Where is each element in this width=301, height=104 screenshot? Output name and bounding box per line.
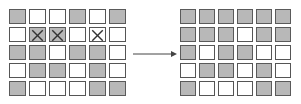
- grid-cell: [256, 9, 272, 24]
- grid-cell: [199, 9, 215, 24]
- grid-cell: [199, 63, 215, 78]
- right-arrow-icon: [133, 51, 177, 57]
- grid-cell: [69, 63, 86, 78]
- grid-cell: [256, 45, 272, 60]
- grid-cell: [109, 45, 126, 60]
- grid-cell: [275, 27, 291, 42]
- grid-cell: [199, 27, 215, 42]
- grid-cell: [69, 27, 86, 42]
- grid-cell: [49, 63, 66, 78]
- grid-cell: [275, 81, 291, 96]
- grid-cell: [89, 81, 106, 96]
- grid-cell: [69, 9, 86, 24]
- grid-cell: [109, 63, 126, 78]
- grid-cell: [180, 45, 196, 60]
- grid-cell: [275, 63, 291, 78]
- grid-cell: [199, 81, 215, 96]
- grid-cell: [9, 9, 26, 24]
- grid-cell: [9, 27, 26, 42]
- grid-cell: [69, 45, 86, 60]
- cross-icon: [30, 28, 45, 43]
- grid-cell: [29, 45, 46, 60]
- grid-cell: [29, 9, 46, 24]
- grid-cell: [89, 45, 106, 60]
- grid-cell: [9, 45, 26, 60]
- grid-cell: [237, 9, 253, 24]
- grid-cell: [49, 45, 66, 60]
- after-grid: [180, 9, 291, 96]
- grid-cell: [180, 63, 196, 78]
- cross-icon: [50, 28, 65, 43]
- grid-cell: [256, 27, 272, 42]
- grid-cell: [89, 27, 106, 42]
- grid-cell: [218, 27, 234, 42]
- grid-cell: [218, 81, 234, 96]
- grid-cell: [49, 9, 66, 24]
- grid-cell: [29, 27, 46, 42]
- grid-cell: [109, 27, 126, 42]
- grid-cell: [89, 63, 106, 78]
- grid-cell: [109, 81, 126, 96]
- grid-cell: [256, 63, 272, 78]
- grid-cell: [180, 81, 196, 96]
- grid-cell: [275, 45, 291, 60]
- grid-cell: [256, 81, 272, 96]
- grid-cell: [218, 9, 234, 24]
- grid-cell: [109, 9, 126, 24]
- cross-icon: [90, 28, 105, 43]
- grid-cell: [218, 45, 234, 60]
- grid-cell: [69, 81, 86, 96]
- grid-cell: [199, 45, 215, 60]
- grid-cell: [29, 81, 46, 96]
- grid-cell: [49, 81, 66, 96]
- grid-cell: [218, 63, 234, 78]
- grid-cell: [237, 27, 253, 42]
- grid-cell: [237, 63, 253, 78]
- grid-cell: [237, 45, 253, 60]
- grid-cell: [237, 81, 253, 96]
- grid-cell: [49, 27, 66, 42]
- before-grid: [9, 9, 126, 96]
- grid-cell: [89, 9, 106, 24]
- grid-cell: [9, 63, 26, 78]
- grid-cell: [29, 63, 46, 78]
- grid-cell: [180, 9, 196, 24]
- grid-cell: [275, 9, 291, 24]
- grid-cell: [9, 81, 26, 96]
- grid-cell: [180, 27, 196, 42]
